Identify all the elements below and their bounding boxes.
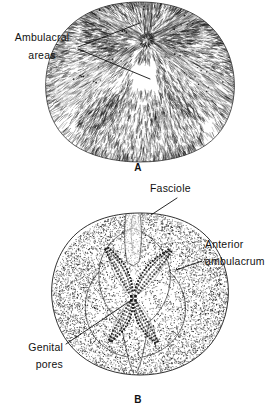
figure-plate: AmbulacralareasFascioleAnteriorambulacru… <box>0 0 280 416</box>
panel-letter-b: B <box>134 394 142 405</box>
label-genital-pores-line2: pores <box>36 358 63 370</box>
label-genital-pores-line1: Genital <box>28 341 63 353</box>
label-ambulacral-areas-line2: areas <box>28 49 55 61</box>
label-anterior-ambulacrum-line1: Anterior <box>205 238 244 250</box>
label-ambulacral-areas-line1: Ambulacral <box>15 31 70 43</box>
genital-pore <box>130 295 133 298</box>
panel-letter-a: A <box>134 162 142 173</box>
label-anterior-ambulacrum-line2: ambulacrum <box>205 255 265 267</box>
genital-pore <box>134 299 137 302</box>
genital-pore <box>134 295 137 298</box>
label-fasciole-line1: Fasciole <box>150 182 191 194</box>
